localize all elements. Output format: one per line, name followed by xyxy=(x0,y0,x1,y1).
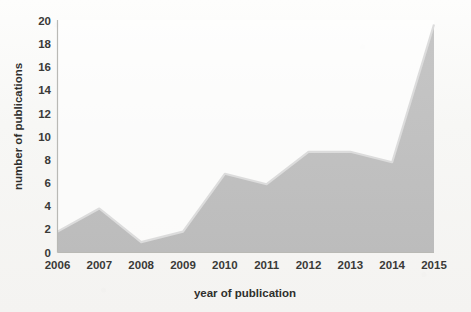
y-axis-title: number of publications xyxy=(12,63,24,190)
x-tick-label: 2011 xyxy=(254,259,280,271)
x-tick-label: 2008 xyxy=(128,259,154,271)
y-tick-label: 20 xyxy=(38,15,51,27)
x-axis-tick-labels: 2006200720082009201020112012201320142015 xyxy=(45,259,448,271)
y-axis-tick-labels: 02468101214161820 xyxy=(38,15,51,259)
y-tick-label: 16 xyxy=(38,61,51,73)
y-tick-label: 12 xyxy=(38,108,51,120)
y-tick-label: 14 xyxy=(38,84,51,96)
x-tick-label: 2009 xyxy=(170,259,196,271)
x-tick-label: 2012 xyxy=(296,259,322,271)
x-tick-label: 2015 xyxy=(421,259,447,271)
x-tick-label: 2014 xyxy=(379,259,405,271)
x-axis-title: year of publication xyxy=(194,287,296,299)
y-tick-label: 8 xyxy=(45,154,52,166)
y-tick-label: 18 xyxy=(38,38,51,50)
y-tick-label: 6 xyxy=(45,177,51,189)
y-tick-label: 0 xyxy=(45,247,51,259)
y-tick-label: 10 xyxy=(38,131,51,143)
y-tick-label: 4 xyxy=(45,200,52,212)
x-tick-label: 2010 xyxy=(212,259,238,271)
x-tick-label: 2007 xyxy=(87,259,113,271)
x-tick-label: 2006 xyxy=(45,259,71,271)
publications-area-chart: 02468101214161820 2006200720082009201020… xyxy=(0,0,471,312)
y-tick-label: 2 xyxy=(45,223,51,235)
chart-figure: 02468101214161820 2006200720082009201020… xyxy=(0,0,471,312)
x-tick-label: 2013 xyxy=(338,259,364,271)
